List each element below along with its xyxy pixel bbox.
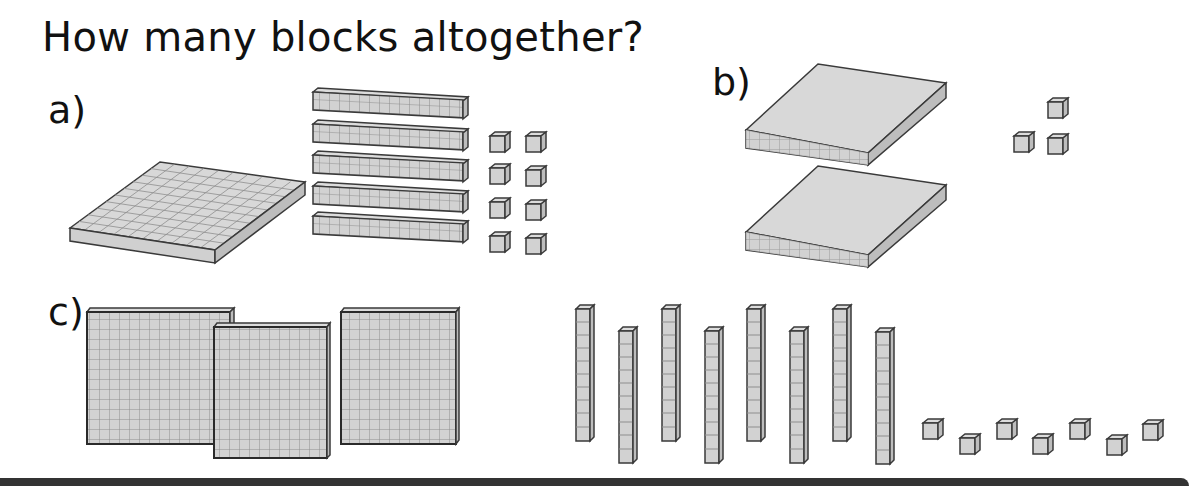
hundred-squares-c (87, 308, 459, 458)
ten-rods-c (576, 305, 894, 464)
page-bottom-border (0, 478, 1189, 486)
ten-rods-a (313, 88, 468, 243)
ones-c (923, 419, 1163, 455)
ones-b (1014, 98, 1068, 154)
hundred-flats-b (746, 64, 946, 267)
blocks-illustration (0, 0, 1189, 486)
ones-a (490, 132, 546, 254)
hundred-flat-a (70, 162, 305, 263)
